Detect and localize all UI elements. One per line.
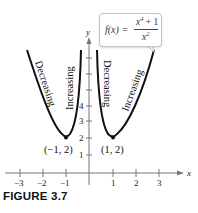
label-increasing-left: Increasing [64, 66, 75, 110]
label-decreasing-left: Decreasing [33, 59, 58, 108]
minimum-point-left [64, 136, 68, 140]
y-tick-label: 1 [79, 150, 84, 160]
figure-caption: FIGURE 3.7 [3, 190, 68, 202]
x-tick-label: 3 [157, 178, 162, 188]
y-tick-label: 2 [79, 133, 84, 143]
y-tick-label: 3 [79, 116, 84, 126]
x-axis-label: x [186, 168, 191, 178]
y-axis-arrow-icon [87, 37, 92, 44]
formula-denominator: x2 [142, 30, 149, 42]
x-tick-label: −3 [14, 178, 24, 188]
x-tick-label: 1 [111, 178, 116, 188]
formula-lhs: f(x) = [105, 24, 128, 35]
x-axis-arrow-icon [177, 171, 184, 176]
minimum-point-right [111, 136, 115, 140]
point-label-right: (1, 2) [101, 144, 124, 156]
point-label-left: (−1, 2) [44, 144, 73, 156]
label-decreasing-right: Decreasing [102, 60, 113, 108]
function-callout: f(x) = x4 + 1 x2 [99, 13, 162, 47]
x-tick-label: −2 [37, 178, 47, 188]
formula-numerator: x4 + 1 [136, 15, 158, 27]
y-tick-label: 4 [79, 101, 84, 111]
y-axis-label: y [85, 27, 90, 37]
x-tick-label: −1 [60, 178, 70, 188]
x-tick-label: 2 [134, 178, 139, 188]
